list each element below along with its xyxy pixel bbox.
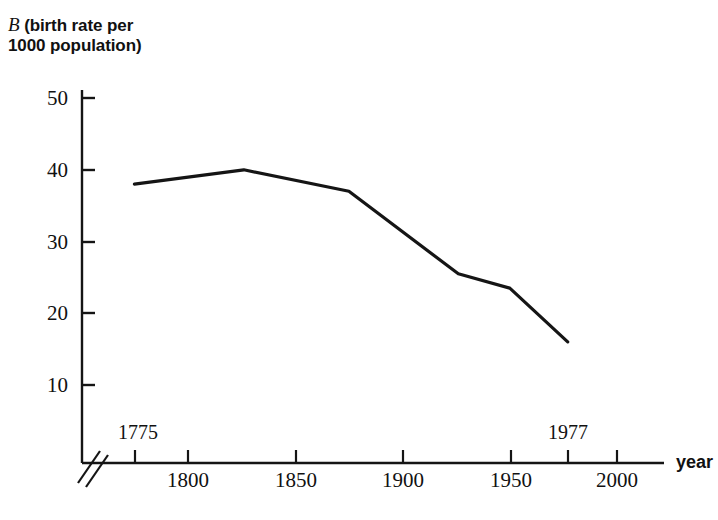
x-tick-label-1800: 1800	[151, 468, 225, 493]
y-tick-label-10: 10	[22, 373, 68, 398]
annotation-start-year: 1775	[101, 421, 175, 445]
y-tick-label-20: 20	[22, 301, 68, 326]
y-axis-variable: B	[8, 14, 20, 35]
y-axis-label-line2: 1000 population)	[8, 36, 141, 55]
y-axis-label: B (birth rate per1000 population)	[8, 14, 141, 56]
y-tick-label-40: 40	[22, 158, 68, 183]
x-tick-label-2000: 2000	[580, 468, 654, 493]
x-tick-label-1900: 1900	[366, 468, 440, 493]
x-tick-label-1850: 1850	[259, 468, 333, 493]
birth-rate-line-chart: B (birth rate per1000 population) 50 40 …	[0, 0, 718, 520]
y-axis-label-line1-rest: (birth rate per	[20, 16, 134, 35]
y-tick-label-50: 50	[22, 86, 68, 111]
x-tick-label-1950: 1950	[474, 468, 548, 493]
x-axis-label: year	[676, 452, 713, 473]
y-tick-label-30: 30	[22, 230, 68, 255]
annotation-end-year: 1977	[531, 421, 605, 445]
